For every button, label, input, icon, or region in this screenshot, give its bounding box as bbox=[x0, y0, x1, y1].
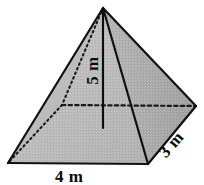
height-label: 5 m bbox=[84, 56, 101, 84]
hidden-edge-backleft-backright bbox=[62, 105, 196, 106]
pyramid-drawing bbox=[0, 0, 204, 185]
pyramid-figure: 5 m 3 m 4 m bbox=[0, 0, 204, 185]
base-label: 4 m bbox=[55, 168, 83, 185]
edge-base-front bbox=[8, 163, 148, 164]
